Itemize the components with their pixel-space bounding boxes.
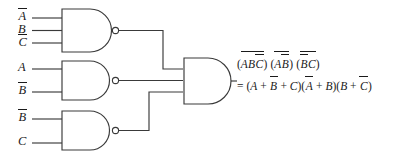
f1-t2-bar: B	[270, 78, 278, 94]
wire-nand3-to-and	[119, 92, 183, 131]
input-c-bar-gate1-text: C	[18, 36, 27, 49]
output-expression: (ABC)(AB)(BC) = (A + B + C)(A + B)(B + C…	[237, 52, 395, 94]
term1-group-bar: ABC	[241, 56, 264, 72]
f2-t1-bar: A	[305, 78, 313, 94]
term2-var2-bar: B	[281, 56, 289, 72]
f1-op2: +	[280, 80, 287, 92]
equals-sign: =	[237, 80, 244, 92]
nand-gate-3	[62, 111, 119, 150]
and-gate-output	[184, 58, 231, 104]
logic-circuit-diagram: A B C A B B C (ABC)(AB)(BC) = (A + B + C…	[0, 0, 395, 162]
term3-var2: C	[308, 58, 316, 70]
wire-nand1-to-and	[119, 31, 183, 70]
term3-var1-bar: B	[300, 56, 308, 72]
nand-3-bubble	[112, 127, 118, 133]
nand-1-bubble	[112, 27, 118, 33]
expression-line-2: = (A + B + C)(A + B)(B + C)	[237, 72, 395, 94]
input-c-gate3-text: C	[18, 134, 26, 148]
input-a-gate2-text: A	[18, 60, 26, 74]
f1-t1: A	[250, 80, 257, 92]
f3-op1: +	[350, 80, 357, 92]
term2-group-bar: AB	[274, 56, 289, 72]
term2-var1: A	[274, 58, 281, 70]
term1-var1: A	[241, 58, 248, 70]
term1-var3-bar: C	[255, 56, 264, 72]
term3-group-bar: BC	[300, 56, 316, 72]
input-b-bar-gate3-text: B	[18, 111, 27, 124]
nand-2-bubble	[112, 77, 118, 83]
input-c-bar-gate1: C	[18, 36, 27, 49]
f2-op1: +	[316, 80, 323, 92]
input-a-gate2: A	[18, 61, 26, 74]
nand-gate-1	[62, 9, 119, 52]
f3-t2-bar: C	[359, 78, 368, 94]
expression-line-1: (ABC)(AB)(BC)	[237, 52, 395, 72]
nand-gate-2	[62, 61, 119, 100]
input-a-bar-gate1: A	[18, 10, 27, 23]
f1-op1: +	[260, 80, 267, 92]
f3-t1: B	[340, 80, 347, 92]
input-a-bar-gate1-text: A	[18, 10, 27, 23]
input-b-bar-gate2-text: B	[18, 84, 27, 97]
input-b-bar-gate2: B	[18, 84, 27, 97]
input-b-bar-gate3: B	[18, 111, 27, 124]
term1-var2: B	[248, 58, 255, 70]
input-c-gate3: C	[18, 135, 26, 148]
